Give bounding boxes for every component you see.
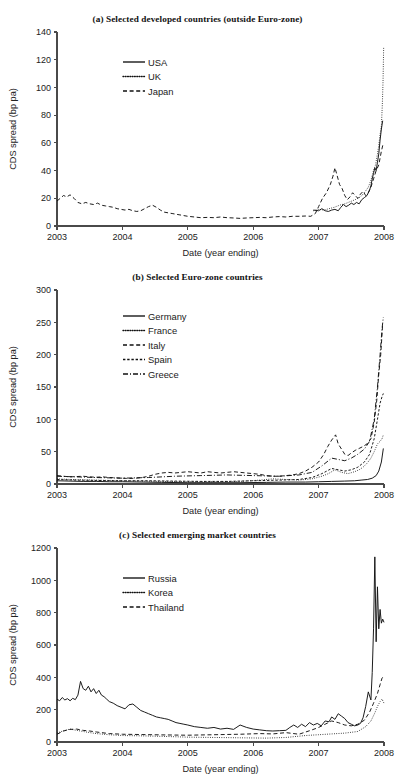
legend-label-thailand: Thailand [148,602,184,613]
y-tick-label: 150 [36,382,51,392]
x-tick-label: 2003 [47,748,67,758]
x-tick-label: 2008 [374,232,394,242]
y-tick-label: 20 [41,193,51,203]
y-tick-label: 100 [36,83,51,93]
y-tick-label: 80 [41,110,51,120]
y-tick-label: 120 [36,55,51,65]
y-tick-label: 40 [41,166,51,176]
y-tick-label: 0 [46,737,51,747]
y-tick-label: 1200 [31,543,51,553]
panel-b-plot: 0501001502002503002003200420052006200720… [0,258,395,516]
legend-label-spain: Spain [148,354,172,365]
x-tick-label: 2003 [47,490,67,500]
x-tick-label: 2003 [47,232,67,242]
x-tick-label: 2005 [178,232,198,242]
panel-c-title: (c) Selected emerging market countries [0,530,395,540]
x-tick-label: 2004 [112,490,132,500]
legend-label-germany: Germany [148,311,187,322]
series-line-japan [57,143,383,219]
legend-label-japan: Japan [148,86,174,97]
x-tick-label: 2007 [309,232,329,242]
panel-a: (a) Selected developed countries (outsid… [0,0,395,258]
x-tick-label: 2006 [243,490,263,500]
series-line-usa [313,121,382,212]
y-axis-title: CDS spread (bp pa) [8,604,18,686]
y-tick-label: 400 [36,673,51,683]
y-tick-label: 250 [36,318,51,328]
y-tick-label: 100 [36,415,51,425]
x-axis-title: Date (year ending) [182,506,258,516]
legend-label-usa: USA [148,57,168,68]
legend-label-greece: Greece [148,369,179,380]
legend-label-uk: UK [148,71,162,82]
y-tick-label: 600 [36,640,51,650]
x-tick-label: 2006 [243,232,263,242]
panel-a-title: (a) Selected developed countries (outsid… [0,14,395,24]
series-line-uk [313,47,383,211]
x-tick-label: 2006 [243,748,263,758]
series-line-greece [57,317,383,478]
y-tick-label: 0 [46,221,51,231]
x-axis-title: Date (year ending) [182,248,258,258]
y-tick-label: 140 [36,27,51,37]
y-tick-label: 200 [36,350,51,360]
y-tick-label: 50 [41,447,51,457]
x-tick-label: 2004 [112,232,132,242]
panel-c: (c) Selected emerging market countries 0… [0,516,395,774]
x-axis-title: Date (year ending) [182,764,258,774]
x-tick-label: 2008 [374,748,394,758]
series-line-thailand [57,676,384,735]
panel-a-plot: 0204060801001201402003200420052006200720… [0,0,395,258]
legend-label-russia: Russia [148,573,177,584]
x-tick-label: 2008 [374,490,394,500]
panel-b: (b) Selected Euro-zone countries 0501001… [0,258,395,516]
x-tick-label: 2005 [178,748,198,758]
x-tick-label: 2005 [178,490,198,500]
legend-label-france: France [148,325,177,336]
panel-b-title: (b) Selected Euro-zone countries [0,272,395,282]
cds-spread-figure: (a) Selected developed countries (outsid… [0,0,395,774]
x-tick-label: 2007 [309,490,329,500]
y-tick-label: 1000 [31,576,51,586]
series-line-italy [57,324,383,479]
legend-label-italy: Italy [148,340,166,351]
y-tick-label: 60 [41,138,51,148]
panel-c-plot: 0200400600800100012002003200420052006200… [0,516,395,774]
y-tick-label: 300 [36,285,51,295]
legend-label-korea: Korea [148,587,174,598]
y-tick-label: 800 [36,608,51,618]
y-axis-title: CDS spread (bp pa) [8,346,18,428]
y-tick-label: 200 [36,705,51,715]
x-tick-label: 2004 [112,748,132,758]
y-axis-title: CDS spread (bp pa) [8,88,18,170]
series-line-spain [57,393,383,481]
y-tick-label: 0 [46,479,51,489]
series-line-russia [57,557,384,731]
x-tick-label: 2007 [309,748,329,758]
